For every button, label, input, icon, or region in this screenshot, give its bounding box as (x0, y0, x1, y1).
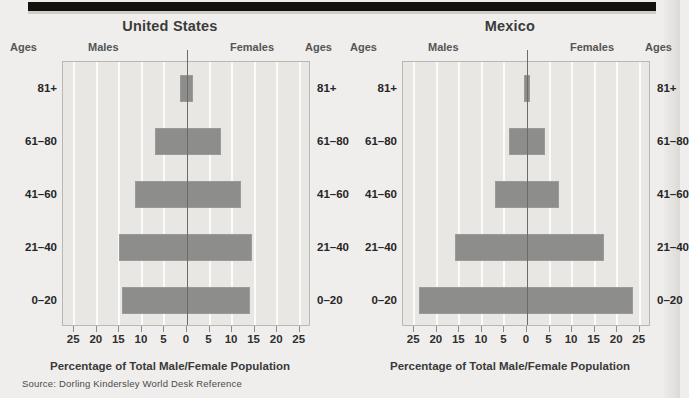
x-axis-tick (639, 326, 640, 332)
x-axis-tick (526, 326, 527, 332)
x-axis-tick-labels-united-states: 2520151050510152025 (0, 333, 340, 349)
age-label-left: 81+ (377, 82, 397, 94)
source-note: Source: Dorling Kindersley World Desk Re… (22, 378, 242, 389)
x-axis-tick-labels-mexico: 2520151050510152025 (340, 333, 680, 349)
x-axis-tick (209, 326, 210, 332)
x-axis-tick (594, 326, 595, 332)
x-axis-tick (571, 326, 572, 332)
x-axis-tick-label: 10 (565, 333, 578, 345)
x-axis-tick (436, 326, 437, 332)
x-axis-tick (73, 326, 74, 332)
age-label-left: 41–60 (25, 188, 57, 200)
x-axis-tick-label: 25 (292, 333, 305, 345)
age-label-left: 61–80 (365, 135, 397, 147)
x-axis-tick (231, 326, 232, 332)
x-axis-tick-label: 10 (135, 333, 148, 345)
x-axis-tick-label: 10 (225, 333, 238, 345)
x-axis-tick-label: 25 (407, 333, 420, 345)
top-rule (28, 2, 656, 11)
age-label-right: 81+ (317, 82, 337, 94)
x-axis-tick-label: 15 (247, 333, 260, 345)
header-females: Females (230, 41, 274, 53)
x-axis-tick-label: 15 (112, 333, 125, 345)
chart-title-united-states: United States (0, 18, 340, 34)
x-axis-tick-label: 10 (475, 333, 488, 345)
x-axis-tick (616, 326, 617, 332)
x-axis-tick (96, 326, 97, 332)
x-axis-tick (503, 326, 504, 332)
x-axis-tick-label: 20 (610, 333, 623, 345)
x-axis-tick (276, 326, 277, 332)
x-axis-tick-label: 5 (500, 333, 506, 345)
x-axis-tick-label: 25 (632, 333, 645, 345)
x-axis-tick-label: 20 (429, 333, 442, 345)
x-axis-tick-label: 5 (205, 333, 211, 345)
age-label-right: 61–80 (657, 135, 689, 147)
header-females: Females (570, 41, 614, 53)
x-axis-tick (299, 326, 300, 332)
x-axis-tick (413, 326, 414, 332)
x-axis-tick (141, 326, 142, 332)
header-ages-right: Ages (305, 41, 332, 53)
x-axis-tick (118, 326, 119, 332)
age-group-labels-mexico: 0–200–2021–4021–4041–6041–6061–8061–8081… (340, 61, 680, 326)
age-label-left: 21–40 (25, 241, 57, 253)
x-axis-caption-united-states: Percentage of Total Male/Female Populati… (0, 360, 340, 372)
charts-container: United States Ages Males Females Ages 25… (0, 14, 680, 398)
x-axis-tick (186, 326, 187, 332)
x-axis-tick (549, 326, 550, 332)
x-axis-tick (481, 326, 482, 332)
x-axis-tick-label: 15 (452, 333, 465, 345)
age-label-left: 0–20 (371, 294, 397, 306)
header-ages-right: Ages (645, 41, 672, 53)
x-axis-tick (163, 326, 164, 332)
age-label-right: 41–60 (657, 188, 689, 200)
x-axis-tick (458, 326, 459, 332)
x-axis-tick-label: 15 (587, 333, 600, 345)
x-axis-tick-label: 0 (523, 333, 529, 345)
chart-header-labels-united-states: Ages Males Females Ages (0, 41, 340, 57)
age-label-left: 81+ (37, 82, 57, 94)
age-label-right: 81+ (657, 82, 677, 94)
x-axis-ticks-united-states (62, 326, 310, 333)
age-label-left: 61–80 (25, 135, 57, 147)
header-males: Males (428, 41, 459, 53)
x-axis-caption-mexico: Percentage of Total Male/Female Populati… (340, 360, 680, 372)
age-label-left: 0–20 (31, 294, 57, 306)
age-group-labels-united-states: 0–200–2021–4021–4041–6041–6061–8061–8081… (0, 61, 340, 326)
age-label-left: 41–60 (365, 188, 397, 200)
header-males: Males (88, 41, 119, 53)
header-ages-left: Ages (10, 41, 37, 53)
chart-title-mexico: Mexico (340, 18, 680, 34)
age-label-right: 21–40 (657, 241, 689, 253)
chart-header-labels-mexico: Ages Males Females Ages (340, 41, 680, 57)
age-label-left: 21–40 (365, 241, 397, 253)
header-ages-left: Ages (350, 41, 377, 53)
x-axis-ticks-mexico (402, 326, 650, 333)
x-axis-tick-label: 25 (67, 333, 80, 345)
x-axis-tick-label: 20 (270, 333, 283, 345)
chart-panel-united-states: United States Ages Males Females Ages 25… (0, 14, 340, 398)
chart-panel-mexico: Mexico Ages Males Females Ages 252015105… (340, 14, 680, 398)
x-axis-tick-label: 5 (545, 333, 551, 345)
x-axis-tick (254, 326, 255, 332)
age-label-right: 0–20 (317, 294, 343, 306)
x-axis-tick-label: 5 (160, 333, 166, 345)
x-axis-tick-label: 0 (183, 333, 189, 345)
age-label-right: 0–20 (657, 294, 683, 306)
x-axis-tick-label: 20 (89, 333, 102, 345)
